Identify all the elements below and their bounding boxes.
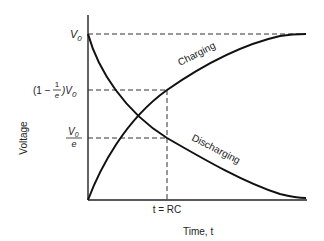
- rc-tick-label: t = RC: [153, 204, 182, 215]
- rc-chart: V0 (1 − 1 e )V0 V0 e Voltage t = RC Time…: [0, 0, 324, 241]
- svg-text:e: e: [71, 139, 76, 149]
- svg-text:(1 −: (1 −: [33, 85, 51, 96]
- svg-text:1: 1: [55, 80, 60, 89]
- svg-text:e: e: [55, 91, 60, 100]
- y-axis-label: Voltage: [18, 121, 29, 155]
- v0-over-e-label: V0 e: [66, 126, 82, 149]
- svg-text:)V0: )V0: [61, 85, 77, 99]
- discharging-annotation: Discharging: [190, 132, 242, 166]
- svg-text:V0: V0: [68, 126, 79, 138]
- one-minus-inv-e-label: (1 − 1 e )V0: [33, 80, 77, 100]
- v0-label: V0: [70, 28, 82, 43]
- x-axis-label: Time, t: [183, 226, 213, 237]
